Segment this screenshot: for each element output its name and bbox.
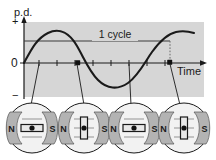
inset-4-north-label: N — [160, 124, 167, 134]
x-axis-label: Time — [177, 65, 201, 77]
inset-2-south-label: S — [101, 124, 107, 134]
inset-2-north-label: N — [60, 124, 67, 134]
y-axis-minus-label: − — [12, 89, 18, 101]
inset-1-north-label: N — [8, 124, 15, 134]
y-axis-zero-label: 0 — [11, 56, 18, 70]
inset-4: N S — [158, 103, 210, 153]
ac-generator-figure: 1 cycle N S — [0, 0, 216, 160]
y-axis-plus-label: + — [12, 15, 18, 27]
inset-3-north-label: N — [110, 124, 117, 134]
inset-3-axle — [131, 125, 136, 130]
inset-1: N S — [6, 103, 58, 153]
inset-4-axle — [181, 125, 186, 130]
figure-root: 1 cycle N S — [0, 0, 216, 160]
inset-3-south-label: S — [151, 124, 157, 134]
inset-4-south-label: S — [201, 124, 207, 134]
inset-3: N S — [108, 103, 160, 153]
inset-2-axle — [81, 125, 86, 130]
inset-1-south-label: S — [49, 124, 55, 134]
inset-1-axle — [29, 125, 34, 130]
inset-2: N S — [58, 103, 110, 153]
cycle-label: 1 cycle — [99, 28, 132, 40]
